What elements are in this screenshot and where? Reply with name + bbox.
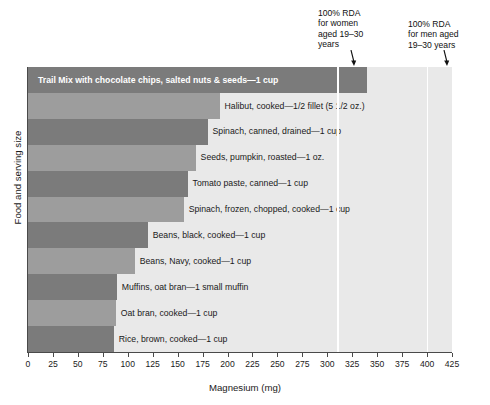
x-axis-tick xyxy=(377,353,378,357)
bar xyxy=(28,300,116,326)
x-axis-tick-label: 125 xyxy=(146,359,160,369)
bar xyxy=(28,248,135,274)
bar xyxy=(28,274,117,300)
x-axis-tick xyxy=(252,353,253,357)
x-axis-tick-label: 375 xyxy=(395,359,409,369)
chart-root: 100% RDA for women aged 19–30 years 100%… xyxy=(0,0,490,405)
x-axis-tick xyxy=(178,353,179,357)
x-axis-tick xyxy=(402,353,403,357)
x-axis-tick-label: 25 xyxy=(48,359,58,369)
x-axis-tick xyxy=(452,353,453,357)
bar-label: Muffins, oat bran—1 small muffin xyxy=(117,283,249,292)
y-axis-title: Food and serving size xyxy=(12,108,23,248)
x-axis-tick xyxy=(78,353,79,357)
bar xyxy=(28,145,196,171)
x-axis-tick xyxy=(103,353,104,357)
bar-label: Spinach, frozen, chopped, cooked—1 cup xyxy=(184,205,350,214)
bar xyxy=(28,326,114,352)
x-axis-tick-label: 400 xyxy=(420,359,434,369)
bar-row: Beans, Navy, cooked—1 cup xyxy=(28,248,452,274)
x-axis-tick xyxy=(128,353,129,357)
x-axis-tick xyxy=(153,353,154,357)
bar xyxy=(28,93,220,119)
x-axis-tick-label: 300 xyxy=(320,359,334,369)
x-axis-tick xyxy=(302,353,303,357)
x-axis-tick xyxy=(203,353,204,357)
x-axis-tick xyxy=(352,353,353,357)
x-axis-tick-label: 50 xyxy=(73,359,83,369)
rda-reference-line-women xyxy=(337,67,338,352)
rda-reference-line-men xyxy=(427,67,428,352)
x-axis-tick xyxy=(28,353,29,357)
x-axis-tick-label: 350 xyxy=(370,359,384,369)
x-axis-tick-label: 150 xyxy=(170,359,184,369)
bar-label: Rice, brown, cooked—1 cup xyxy=(114,335,228,344)
x-axis-tick-label: 275 xyxy=(295,359,309,369)
bar xyxy=(28,197,184,223)
x-axis-tick-label: 425 xyxy=(445,359,459,369)
x-axis-tick-label: 225 xyxy=(245,359,259,369)
x-axis-tick-label: 75 xyxy=(98,359,108,369)
bar-row: Rice, brown, cooked—1 cup xyxy=(28,326,452,352)
x-axis-tick-label: 175 xyxy=(195,359,209,369)
bar xyxy=(28,222,148,248)
bar-label: Spinach, canned, drained—1 cup xyxy=(208,127,341,136)
x-axis-tick-label: 200 xyxy=(220,359,234,369)
x-axis-tick-label: 0 xyxy=(26,359,31,369)
plot-area: Trail Mix with chocolate chips, salted n… xyxy=(28,67,452,352)
bar-row: Beans, black, cooked—1 cup xyxy=(28,222,452,248)
x-axis-title: Magnesium (mg) xyxy=(0,382,490,393)
bar-row: Spinach, frozen, chopped, cooked—1 cup xyxy=(28,197,452,223)
bar-label: Beans, black, cooked—1 cup xyxy=(148,231,266,240)
x-axis-tick-label: 250 xyxy=(270,359,284,369)
bar-row: Halibut, cooked—1/2 fillet (5 1/2 oz.) xyxy=(28,93,452,119)
x-axis-tick-label: 325 xyxy=(345,359,359,369)
bar-label: Oat bran, cooked—1 cup xyxy=(116,309,218,318)
annotation-arrow-women-icon xyxy=(348,50,358,66)
bar-row: Muffins, oat bran—1 small muffin xyxy=(28,274,452,300)
bar-label: Tomato paste, canned—1 cup xyxy=(188,179,308,188)
x-axis-tick-label: 100 xyxy=(121,359,135,369)
bar-row: Trail Mix with chocolate chips, salted n… xyxy=(28,67,452,93)
x-axis-line xyxy=(28,352,452,353)
annotation-arrow-men-icon xyxy=(441,50,451,66)
x-axis-tick xyxy=(327,353,328,357)
bar-label: Trail Mix with chocolate chips, salted n… xyxy=(33,76,278,85)
x-axis-tick xyxy=(277,353,278,357)
bar-row: Oat bran, cooked—1 cup xyxy=(28,300,452,326)
bar-label: Seeds, pumpkin, roasted—1 oz. xyxy=(196,153,325,162)
bar-label: Beans, Navy, cooked—1 cup xyxy=(135,257,251,266)
y-axis-line xyxy=(27,67,28,353)
x-axis-tick xyxy=(228,353,229,357)
bar-label: Halibut, cooked—1/2 fillet (5 1/2 oz.) xyxy=(220,102,365,111)
bar-row: Spinach, canned, drained—1 cup xyxy=(28,119,452,145)
x-axis-tick xyxy=(427,353,428,357)
bar-row: Seeds, pumpkin, roasted—1 oz. xyxy=(28,145,452,171)
annotation-rda-women: 100% RDA for women aged 19–30 years xyxy=(318,8,380,50)
x-axis-tick xyxy=(53,353,54,357)
annotation-rda-men: 100% RDA for men aged 19–30 years xyxy=(408,19,474,50)
bar xyxy=(28,119,208,145)
bar xyxy=(28,171,188,197)
bar-row: Tomato paste, canned—1 cup xyxy=(28,171,452,197)
